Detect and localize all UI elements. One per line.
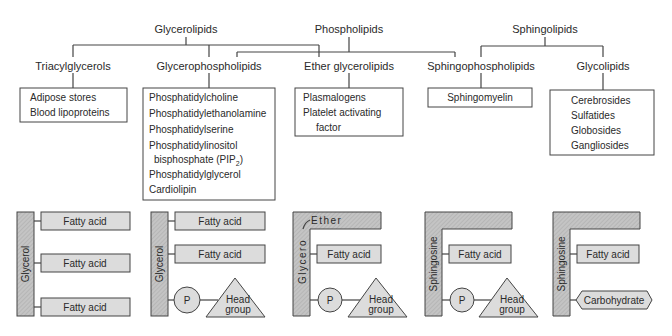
item-phosphatidylglycerol: Phosphatidylglycerol: [149, 169, 241, 180]
item-phosphatidylinositol: Phosphatidylinositol: [149, 140, 237, 151]
item-sphingomyelin: Sphingomyelin: [447, 92, 513, 103]
svg-text:Fatty acid: Fatty acid: [198, 249, 241, 260]
label-phospholipids: Phospholipids: [315, 23, 384, 35]
item-cardiolipin: Cardiolipin: [149, 184, 196, 195]
label-sphingophospholipids: Sphingophospholipids: [427, 60, 535, 72]
item-phosphatidylserine: Phosphatidylserine: [149, 124, 234, 135]
box-ether-glycerolipids: Plasmalogens Platelet activating factor: [295, 88, 403, 136]
svg-text:Fatty acid: Fatty acid: [586, 249, 629, 260]
item-phosphatidylcholine: Phosphatidylcholine: [149, 92, 238, 103]
item-factor: factor: [316, 122, 342, 133]
box-glycolipids: Cerebrosides Sulfatides Globosides Gangl…: [550, 90, 654, 155]
label-ether-glycerolipids: Ether glycerolipids: [304, 60, 394, 72]
svg-text:Sphingosine: Sphingosine: [428, 236, 439, 291]
svg-text:Sphingosine: Sphingosine: [556, 236, 567, 291]
svg-text:Fatty acid: Fatty acid: [198, 216, 241, 227]
svg-text:Fatty acid: Fatty acid: [63, 302, 106, 313]
svg-text:Fatty acid: Fatty acid: [458, 249, 501, 260]
item-globosides: Globosides: [571, 125, 621, 136]
item-plasmalogens: Plasmalogens: [303, 92, 366, 103]
label-glycolipids: Glycolipids: [576, 60, 630, 72]
svg-text:Glycero: Glycero: [297, 239, 308, 284]
svg-text:group: group: [225, 304, 251, 315]
structure-glycerophospholipid: Glycerol Fatty acid Fatty acid P Head gr…: [151, 212, 265, 317]
label-triacylglycerols: Triacylglycerols: [35, 60, 111, 72]
svg-text:Fatty acid: Fatty acid: [63, 216, 106, 227]
item-phosphatidylethanolamine: Phosphatidylethanolamine: [149, 108, 267, 119]
structure-glycolipid: Sphingosine Fatty acid Carbohydrate: [553, 212, 652, 316]
label-glycerophospholipids: Glycerophospholipids: [156, 60, 262, 72]
box-sphingophospholipids: Sphingomyelin: [428, 88, 532, 107]
svg-text:group: group: [499, 304, 525, 315]
svg-text:P: P: [184, 295, 191, 306]
svg-text:Glycerol: Glycerol: [20, 246, 31, 283]
structure-triacylglycerol: Glycerol Fatty acid Fatty acid Fatty aci…: [17, 212, 130, 316]
item-platelet-activating: Platelet activating: [303, 107, 381, 118]
label-sphingolipids: Sphingolipids: [512, 23, 578, 35]
box-glycerophospholipids: Phosphatidylcholine Phosphatidylethanola…: [143, 88, 275, 200]
structure-sphingophospholipid: Sphingosine Fatty acid P Head group: [425, 212, 538, 317]
svg-text:P: P: [459, 295, 466, 306]
item-cerebrosides: Cerebrosides: [571, 95, 630, 106]
svg-text:group: group: [368, 304, 394, 315]
svg-text:Fatty acid: Fatty acid: [327, 249, 370, 260]
svg-text:Fatty acid: Fatty acid: [63, 258, 106, 269]
structure-ether-glycerolipid: Glycero Ether Fatty acid P Head group: [293, 212, 407, 317]
item-adipose-stores: Adipose stores: [30, 92, 96, 103]
item-gangliosides: Gangliosides: [571, 140, 629, 151]
box-triacylglycerols: Adipose stores Blood lipoproteins: [20, 88, 127, 122]
item-blood-lipoproteins: Blood lipoproteins: [30, 107, 110, 118]
lipid-classification-diagram: Glycerolipids Phospholipids Sphingolipid…: [0, 0, 672, 336]
svg-text:Carbohydrate: Carbohydrate: [584, 295, 645, 306]
svg-text:Ether: Ether: [311, 215, 342, 226]
svg-text:Glycerol: Glycerol: [154, 246, 165, 283]
item-sulfatides: Sulfatides: [571, 110, 615, 121]
label-glycerolipids: Glycerolipids: [155, 23, 218, 35]
svg-text:P: P: [327, 295, 334, 306]
